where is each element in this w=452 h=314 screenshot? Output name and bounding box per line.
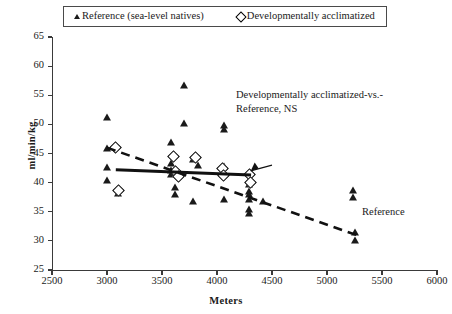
filled-triangle-icon (180, 120, 188, 127)
y-tick (48, 240, 52, 241)
filled-triangle-icon (103, 177, 111, 184)
open-diamond-icon (236, 13, 247, 21)
filled-triangle-icon (349, 193, 357, 200)
trendlines-layer (0, 0, 452, 314)
filled-triangle-icon (220, 126, 228, 133)
open-diamond-icon (218, 170, 231, 183)
filled-triangle-icon (167, 138, 175, 145)
annotation-acclimatized-vs-reference: Developmentally acclimatized-vs.- Refere… (236, 88, 426, 115)
annotation-reference-label: Reference (362, 206, 405, 217)
filled-triangle-icon (171, 184, 179, 191)
filled-triangle-icon (220, 195, 228, 202)
x-tick-label: 3000 (85, 276, 129, 287)
legend-label-reference: Reference (sea-level natives) (82, 11, 204, 22)
chart-root: Reference (sea-level natives) Developmen… (0, 0, 452, 314)
filled-triangle-icon (180, 81, 188, 88)
y-tick (48, 124, 52, 125)
y-tick-label: 35 (18, 206, 44, 217)
y-tick (48, 66, 52, 67)
y-tick (48, 211, 52, 212)
x-axis-title: Meters (0, 295, 452, 306)
x-tick-label: 3500 (140, 276, 184, 287)
filled-triangle-icon (189, 197, 197, 204)
filled-triangle-icon (351, 236, 359, 243)
y-axis-line (52, 37, 53, 271)
legend-item-reference: Reference (sea-level natives) (71, 7, 204, 26)
x-tick-label: 6000 (415, 276, 452, 287)
y-axis-title: ml/min/kg (26, 106, 37, 186)
x-axis-line (52, 270, 438, 271)
x-tick-label: 5500 (360, 276, 404, 287)
legend-item-acclimatized: Developmentally acclimatized (236, 7, 375, 26)
y-tick-label: 65 (18, 31, 44, 42)
filled-triangle-icon (103, 114, 111, 121)
filled-triangle-icon (351, 228, 359, 235)
y-tick (48, 95, 52, 96)
filled-triangle-icon (71, 14, 82, 19)
open-diamond-icon (109, 141, 122, 154)
filled-triangle-icon (103, 164, 111, 171)
filled-triangle-icon (245, 195, 253, 202)
filled-triangle-icon (259, 197, 267, 204)
filled-triangle-icon (245, 210, 253, 217)
x-tick-label: 2500 (30, 276, 74, 287)
x-tick-label: 4500 (250, 276, 294, 287)
y-tick (48, 36, 52, 37)
annotation-line1: Developmentally acclimatized-vs.- (236, 88, 426, 102)
annotation-line2: Reference, NS (236, 102, 426, 116)
x-tick-label: 4000 (195, 276, 239, 287)
chart-legend: Reference (sea-level natives) Developmen… (63, 6, 387, 27)
filled-triangle-icon (171, 191, 179, 198)
y-tick-label: 25 (18, 264, 44, 275)
y-tick (48, 153, 52, 154)
y-tick-label: 55 (18, 89, 44, 100)
x-tick-label: 5000 (305, 276, 349, 287)
filled-triangle-icon (349, 186, 357, 193)
annotation-arrow (251, 165, 272, 171)
trendline-reference (107, 148, 360, 237)
legend-label-acclimatized: Developmentally acclimatized (247, 11, 375, 22)
y-tick (48, 182, 52, 183)
y-tick-label: 30 (18, 235, 44, 246)
y-tick-label: 60 (18, 60, 44, 71)
